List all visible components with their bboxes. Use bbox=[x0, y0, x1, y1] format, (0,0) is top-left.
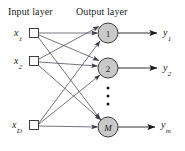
input-label-x2: x2 bbox=[14, 55, 22, 69]
output-node-1-label: 1 bbox=[98, 29, 118, 39]
output-label-ym: ym bbox=[161, 119, 171, 133]
vertical-ellipsis-icon bbox=[107, 87, 110, 106]
input-label-xD-base: x bbox=[12, 119, 16, 130]
ellipsis-dot bbox=[107, 87, 110, 90]
output-nodes bbox=[98, 23, 118, 137]
input-label-x1: x1 bbox=[14, 27, 22, 41]
input-label-x2-sub: 2 bbox=[19, 63, 23, 71]
output-label-y1-base: y bbox=[163, 27, 167, 38]
input-label-x1-base: x bbox=[14, 27, 18, 38]
input-nodes bbox=[30, 29, 39, 130]
input-label-x2-base: x bbox=[14, 55, 18, 66]
output-label-ym-base: y bbox=[161, 119, 165, 130]
input-label-x1-sub: 1 bbox=[19, 35, 23, 43]
input-node-xD[interactable] bbox=[30, 121, 39, 130]
output-label-y1: y1 bbox=[163, 27, 171, 41]
ellipsis-dot bbox=[107, 103, 110, 106]
edge-xD-oM bbox=[39, 126, 98, 127]
input-node-x1[interactable] bbox=[30, 29, 39, 38]
output-node-M-label: M bbox=[98, 123, 118, 133]
output-arrows bbox=[118, 33, 157, 127]
output-label-y2: y2 bbox=[163, 62, 171, 76]
edge-x2-o2 bbox=[39, 62, 98, 66]
input-label-xD-sub: D bbox=[17, 127, 22, 135]
output-label-y2-base: y bbox=[163, 62, 167, 73]
edge-x1-oM bbox=[38, 37, 100, 119]
input-layer-title: Input layer bbox=[8, 6, 53, 17]
output-label-y2-sub: 2 bbox=[168, 70, 172, 78]
output-label-ym-sub: m bbox=[166, 127, 171, 135]
ellipsis-dot bbox=[107, 95, 110, 98]
input-label-xD: xD bbox=[12, 119, 22, 133]
input-node-x2[interactable] bbox=[30, 57, 39, 66]
output-label-y1-sub: 1 bbox=[168, 35, 172, 43]
neural-network-figure: Input layer Output layer x1 x2 xD y1 y2 … bbox=[0, 0, 185, 151]
edge-x1-o2 bbox=[39, 35, 99, 61]
output-layer-title: Output layer bbox=[76, 6, 127, 17]
output-node-2-label: 2 bbox=[98, 64, 118, 74]
network-diagram-canvas bbox=[0, 0, 185, 151]
connection-edges bbox=[38, 27, 101, 128]
